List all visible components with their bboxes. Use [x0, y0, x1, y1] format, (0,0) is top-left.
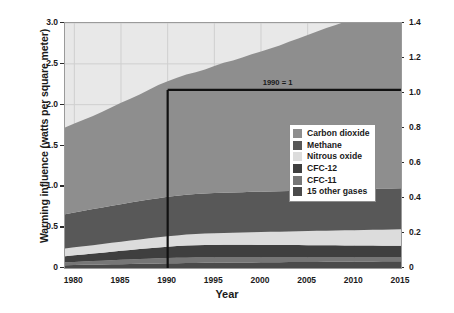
y-tick-left: 0	[28, 262, 58, 272]
legend-swatch	[293, 164, 302, 173]
y-tick-right: 1.4	[409, 17, 439, 27]
y-tick-right: 0.4	[409, 192, 439, 202]
y-tick-right: 0.8	[409, 122, 439, 132]
y-tick-left: 2.0	[28, 99, 58, 109]
x-tick: 1985	[100, 275, 140, 285]
legend-label: CFC-11	[307, 176, 337, 185]
y-tick-right: 1.0	[409, 87, 439, 97]
legend-item: 15 other gases	[293, 186, 370, 198]
legend-swatch	[293, 141, 302, 150]
x-axis-title: Year	[0, 288, 454, 300]
x-tick: 2010	[333, 275, 373, 285]
x-tick: 2015	[380, 275, 420, 285]
x-tick: 1995	[193, 275, 233, 285]
legend-item: Methane	[293, 140, 370, 152]
y-tick-left: 2.5	[28, 58, 58, 68]
legend-item: Carbon dioxide	[293, 128, 370, 140]
y-tick-left: 1.5	[28, 140, 58, 150]
greenhouse-gas-chart: Warming influence (watts per square mete…	[0, 0, 454, 313]
legend-item: Nitrous oxide	[293, 151, 370, 163]
y-tick-right: 0.2	[409, 227, 439, 237]
x-tick: 2005	[287, 275, 327, 285]
y-tick-right: 0	[409, 262, 439, 272]
y-tick-right: 0.6	[409, 157, 439, 167]
legend-label: Carbon dioxide	[307, 129, 370, 138]
legend-swatch	[293, 152, 302, 161]
legend: Carbon dioxideMethaneNitrous oxideCFC-12…	[289, 124, 376, 202]
y-tick-left: 3.0	[28, 17, 58, 27]
legend-swatch	[293, 176, 302, 185]
legend-label: Nitrous oxide	[307, 152, 362, 161]
x-tick: 1980	[53, 275, 93, 285]
legend-label: 15 other gases	[307, 187, 367, 196]
legend-label: Methane	[307, 141, 342, 150]
legend-swatch	[293, 129, 302, 138]
x-tick: 1990	[147, 275, 187, 285]
y-tick-left: 1.0	[28, 180, 58, 190]
legend-item: CFC-12	[293, 163, 370, 175]
x-tick: 2000	[240, 275, 280, 285]
y-tick-left: 0.5	[28, 221, 58, 231]
legend-swatch	[293, 187, 302, 196]
legend-label: CFC-12	[307, 164, 337, 173]
reference-annotation-label: 1990 = 1	[263, 78, 293, 87]
y-tick-right: 1.2	[409, 52, 439, 62]
legend-item: CFC-11	[293, 174, 370, 186]
